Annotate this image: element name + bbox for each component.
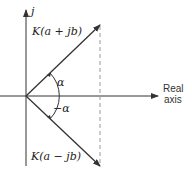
real-axis-label-line1: Real [163, 83, 184, 94]
j-axis-label: j [28, 5, 35, 18]
phasor-diagram: j K(a + jb) K(a − jb) α −α Real axis [0, 0, 192, 173]
angle-alpha-label: α [57, 76, 65, 89]
lower-vector-label: K(a − jb) [30, 150, 81, 163]
real-axis-label-line2: axis [164, 94, 182, 105]
angle-neg-alpha-label: −α [53, 102, 70, 115]
upper-vector-label: K(a + jb) [31, 25, 82, 38]
